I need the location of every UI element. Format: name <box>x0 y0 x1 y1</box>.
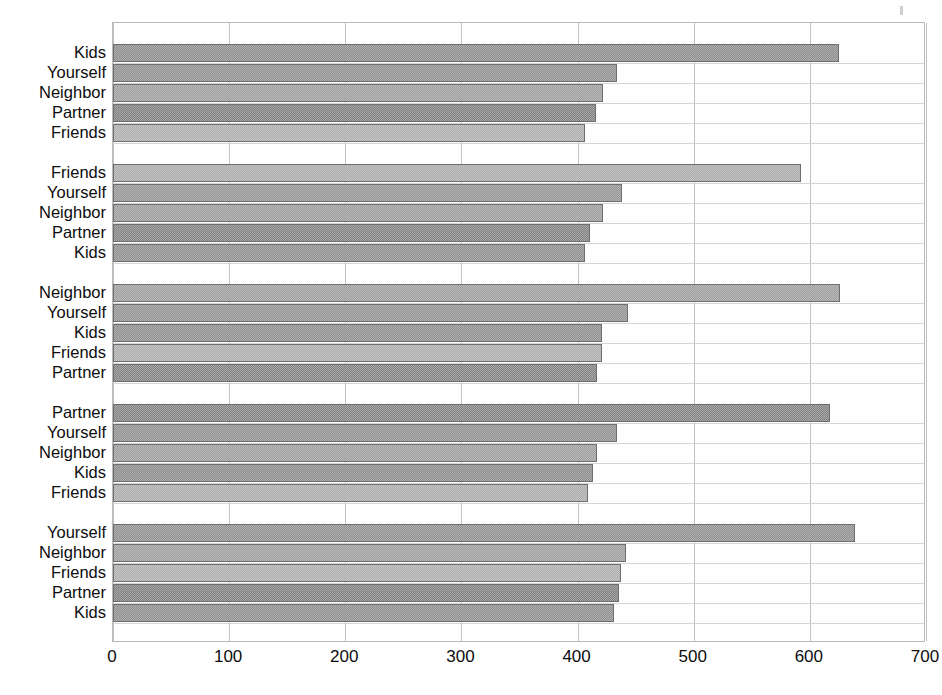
y-tick-label: Yourself <box>47 304 106 321</box>
x-tick-label: 200 <box>330 648 358 665</box>
y-tick-label: Friends <box>51 484 106 501</box>
bar <box>113 104 596 122</box>
bar-chart: KidsYourselfNeighborPartnerFriendsFriend… <box>0 0 942 695</box>
x-tick-label: 100 <box>214 648 242 665</box>
scan-artifact <box>900 6 903 15</box>
y-tick-label: Kids <box>74 464 106 481</box>
x-tick-label: 700 <box>911 648 939 665</box>
bar <box>113 124 585 142</box>
y-tick-label: Kids <box>74 604 106 621</box>
bar <box>113 224 590 242</box>
y-tick-label: Yourself <box>47 424 106 441</box>
y-tick-label: Friends <box>51 344 106 361</box>
bar <box>113 304 628 322</box>
bar <box>113 544 626 562</box>
bar <box>113 484 588 502</box>
bar <box>113 584 619 602</box>
y-tick-label: Partner <box>52 364 106 381</box>
y-tick-label: Friends <box>51 164 106 181</box>
y-axis-labels: KidsYourselfNeighborPartnerFriendsFriend… <box>0 22 106 642</box>
bar <box>113 84 603 102</box>
bar <box>113 64 617 82</box>
y-tick-label: Yourself <box>47 64 106 81</box>
bar <box>113 424 617 442</box>
y-tick-label: Yourself <box>47 184 106 201</box>
bars-layer <box>113 23 924 641</box>
x-tick-label: 400 <box>562 648 590 665</box>
bar <box>113 204 603 222</box>
x-tick-label: 0 <box>107 648 116 665</box>
y-tick-label: Yourself <box>47 524 106 541</box>
y-tick-label: Kids <box>74 244 106 261</box>
bar <box>113 344 602 362</box>
bar <box>113 524 855 542</box>
x-tick-label: 500 <box>679 648 707 665</box>
y-tick-label: Neighbor <box>39 84 106 101</box>
bar <box>113 244 585 262</box>
y-tick-label: Kids <box>74 324 106 341</box>
x-tick-label: 300 <box>446 648 474 665</box>
y-tick-label: Partner <box>52 104 106 121</box>
y-tick-label: Partner <box>52 224 106 241</box>
y-tick-label: Partner <box>52 584 106 601</box>
bar <box>113 324 602 342</box>
bar <box>113 604 614 622</box>
x-tick-label: 600 <box>795 648 823 665</box>
bar <box>113 444 597 462</box>
plot-area <box>112 22 925 642</box>
bar <box>113 284 840 302</box>
y-tick-label: Neighbor <box>39 204 106 221</box>
y-tick-label: Neighbor <box>39 444 106 461</box>
bar <box>113 464 593 482</box>
x-axis-tick-labels: 0100200300400500600700 <box>0 648 942 678</box>
vertical-gridline <box>926 23 927 641</box>
bar <box>113 564 621 582</box>
bar <box>113 44 839 62</box>
y-tick-label: Friends <box>51 564 106 581</box>
bar <box>113 184 622 202</box>
y-tick-label: Neighbor <box>39 284 106 301</box>
bar <box>113 164 801 182</box>
y-tick-label: Friends <box>51 124 106 141</box>
y-tick-label: Kids <box>74 44 106 61</box>
bar <box>113 404 830 422</box>
y-tick-label: Partner <box>52 404 106 421</box>
y-tick-label: Neighbor <box>39 544 106 561</box>
bar <box>113 364 597 382</box>
